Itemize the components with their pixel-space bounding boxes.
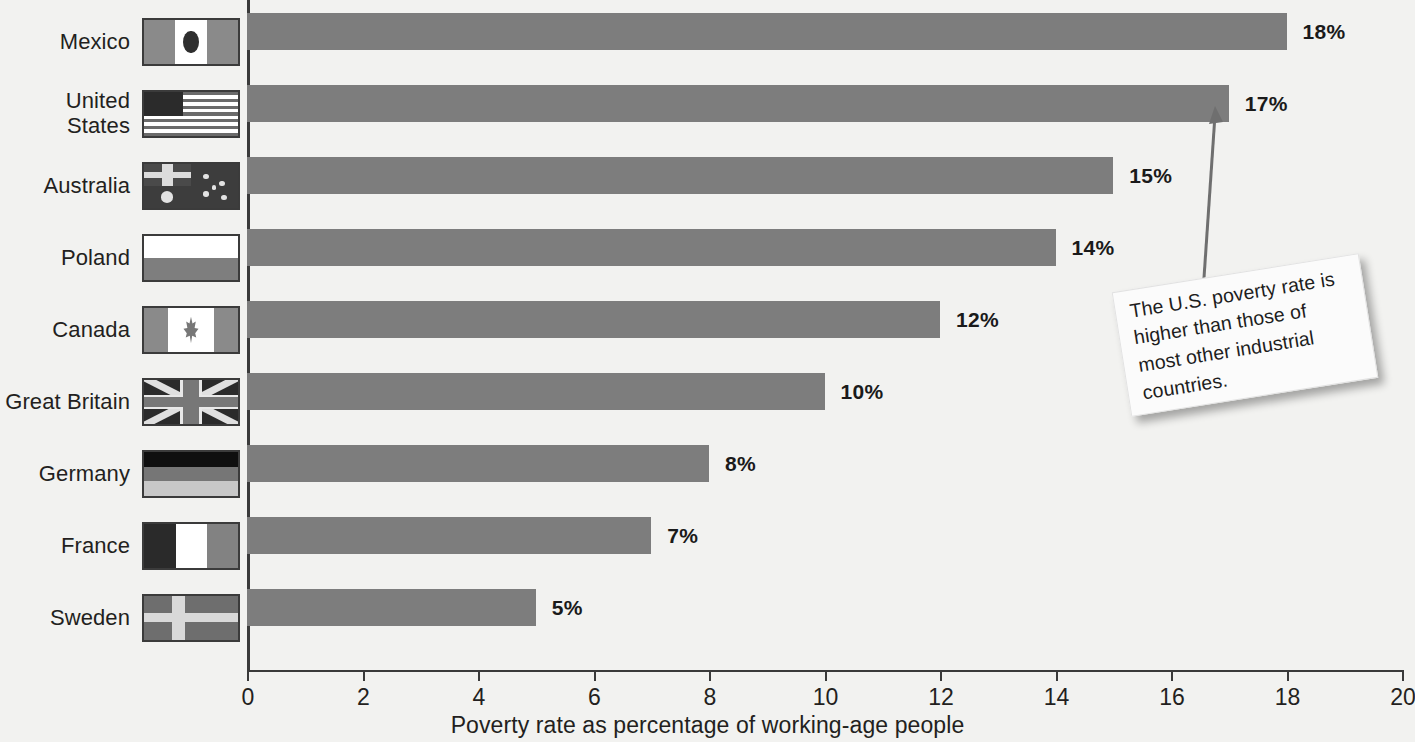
category-label: Poland xyxy=(61,246,142,271)
category-row: Sweden xyxy=(0,582,240,654)
flag-star xyxy=(212,185,217,189)
flag-star xyxy=(203,191,209,196)
flag-icon xyxy=(142,450,240,498)
flag-icon xyxy=(142,90,240,138)
callout-note: The U.S. poverty rate is higher than tho… xyxy=(1120,272,1370,398)
category-row: France xyxy=(0,510,240,582)
bar-value-label: 14% xyxy=(1072,236,1115,260)
category-row: Mexico xyxy=(0,6,240,78)
x-tick xyxy=(1056,670,1058,681)
callout-box: The U.S. poverty rate is higher than tho… xyxy=(1112,253,1379,417)
flag-cross xyxy=(144,613,238,623)
x-tick xyxy=(1171,670,1173,681)
flag-band xyxy=(176,524,207,568)
flag-cross-inner xyxy=(183,380,198,424)
bar-value-label: 8% xyxy=(725,452,756,476)
poverty-rate-bar-chart: MexicoUnited StatesAustraliaPolandCanada… xyxy=(0,0,1415,742)
bar-value-label: 5% xyxy=(552,596,583,620)
flag-canton xyxy=(144,92,183,116)
flag-band xyxy=(144,258,238,280)
category-label: Great Britain xyxy=(5,390,142,415)
flag-icon xyxy=(142,378,240,426)
flag-emblem xyxy=(183,31,198,53)
bar-value-label: 12% xyxy=(956,308,999,332)
flag-icon xyxy=(142,306,240,354)
category-label: Mexico xyxy=(60,30,142,55)
x-tick xyxy=(825,670,827,681)
x-tick xyxy=(363,670,365,681)
x-tick xyxy=(1287,670,1289,681)
flag-icon xyxy=(142,162,240,210)
x-tick-label: 8 xyxy=(704,684,717,711)
x-tick xyxy=(247,670,249,681)
flag-band xyxy=(144,467,238,482)
category-label: Sweden xyxy=(50,606,142,631)
bar xyxy=(247,301,940,338)
x-tick-label: 16 xyxy=(1159,684,1185,711)
bar-value-label: 7% xyxy=(667,524,698,548)
category-label: France xyxy=(61,534,142,559)
flag-band xyxy=(207,524,238,568)
category-label: Germany xyxy=(39,462,142,487)
x-tick-label: 20 xyxy=(1390,684,1415,711)
category-row: Canada xyxy=(0,294,240,366)
flag-icon xyxy=(142,594,240,642)
flag-band xyxy=(144,452,238,467)
flag-stripe xyxy=(144,126,238,129)
x-tick xyxy=(709,670,711,681)
flag-band xyxy=(144,308,168,352)
x-axis-label: Poverty rate as percentage of working-ag… xyxy=(0,712,1415,739)
x-tick xyxy=(478,670,480,681)
bar xyxy=(247,157,1113,194)
x-tick-label: 18 xyxy=(1275,684,1301,711)
flag-band xyxy=(144,236,238,258)
flag-band xyxy=(207,20,238,64)
bar xyxy=(247,229,1056,266)
flag-band xyxy=(144,524,176,568)
flag-icon xyxy=(142,18,240,66)
category-row: Australia xyxy=(0,150,240,222)
category-label: Australia xyxy=(44,174,143,199)
category-row: Germany xyxy=(0,438,240,510)
x-tick-label: 14 xyxy=(1044,684,1070,711)
flag-stripe xyxy=(144,133,238,136)
category-row: Great Britain xyxy=(0,366,240,438)
flag-icon xyxy=(142,234,240,282)
bar xyxy=(247,13,1287,50)
x-tick-label: 10 xyxy=(813,684,839,711)
category-label: United States xyxy=(66,89,142,138)
x-tick xyxy=(1402,670,1404,681)
x-tick xyxy=(594,670,596,681)
bar xyxy=(247,445,709,482)
x-tick-label: 4 xyxy=(473,684,486,711)
flag-band xyxy=(144,20,175,64)
flag-stripe xyxy=(144,119,238,122)
flag-icon xyxy=(142,522,240,570)
flag-cross xyxy=(172,596,185,640)
bar-value-label: 17% xyxy=(1245,92,1288,116)
bar xyxy=(247,589,536,626)
bar-value-label: 10% xyxy=(841,380,884,404)
category-label: Canada xyxy=(52,318,142,343)
category-row: United States xyxy=(0,78,240,150)
bar xyxy=(247,85,1229,122)
bar-value-label: 15% xyxy=(1129,164,1172,188)
bar xyxy=(247,373,825,410)
flag-star xyxy=(219,181,225,186)
bar xyxy=(247,517,651,554)
bar-value-label: 18% xyxy=(1303,20,1346,44)
x-tick-label: 0 xyxy=(242,684,255,711)
flag-star xyxy=(203,174,209,179)
flag-band xyxy=(214,308,238,352)
flag-cross xyxy=(162,164,173,186)
x-tick-label: 6 xyxy=(588,684,601,711)
x-tick xyxy=(940,670,942,681)
flag-star xyxy=(221,195,227,200)
flag-band xyxy=(144,481,238,496)
x-tick-label: 2 xyxy=(357,684,370,711)
flag-star xyxy=(161,191,173,202)
callout-text: The U.S. poverty rate is higher than tho… xyxy=(1128,263,1363,407)
x-tick-label: 12 xyxy=(928,684,954,711)
category-row: Poland xyxy=(0,222,240,294)
